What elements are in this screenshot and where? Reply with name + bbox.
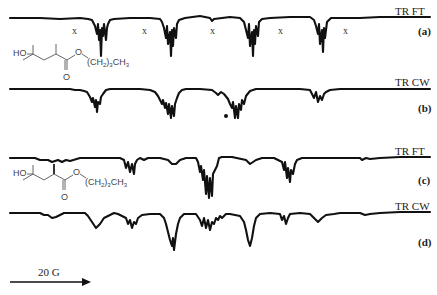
panel-label-a: (a) (418, 25, 431, 38)
x-marker: x (278, 25, 283, 36)
molecular-structure-top: HO O O (CH2)3CH3 (13, 44, 130, 82)
hydroxyl-label: HO (13, 48, 27, 58)
dot-annotation (224, 114, 228, 118)
arrowhead-icon (82, 278, 91, 286)
x-marker: x (72, 25, 77, 36)
epr-spectra-figure: x x x x x TR FT (a) TR CW (b) TR FT (c) … (0, 0, 437, 295)
panel-label-c: (c) (418, 174, 431, 187)
x-marker: x (210, 25, 215, 36)
butyl-chain-label: (CH2)3CH3 (85, 177, 128, 188)
spectrum-a-trace (10, 16, 430, 56)
ester-oxygen-label: O (73, 167, 80, 177)
spectrum-b-trace (10, 89, 430, 118)
ester-oxygen-label: O (75, 47, 82, 57)
carbonyl-oxygen-label: O (63, 72, 70, 82)
spectrum-d-trace (10, 212, 430, 250)
panel-label-d: (d) (418, 236, 432, 249)
x-marker: x (343, 25, 348, 36)
hydroxyl-label: HO (13, 168, 27, 178)
carbonyl-oxygen-label: O (61, 192, 68, 202)
spectrum-a-x-markers: x x x x x (72, 25, 348, 36)
method-label-b: TR CW (395, 76, 430, 88)
spectrum-c-trace (10, 157, 430, 198)
molecular-structure-bottom: HO O O (CH2)3CH3 (13, 164, 128, 202)
scale-bar-label: 20 G (38, 266, 60, 278)
panel-label-b: (b) (418, 102, 432, 115)
method-label-c: TR FT (395, 145, 425, 157)
x-marker: x (142, 25, 147, 36)
butyl-chain-label: (CH2)3CH3 (87, 57, 130, 68)
field-scale-bar: 20 G (10, 266, 91, 286)
method-label-a: TR FT (395, 5, 425, 17)
method-label-d: TR CW (395, 200, 430, 212)
